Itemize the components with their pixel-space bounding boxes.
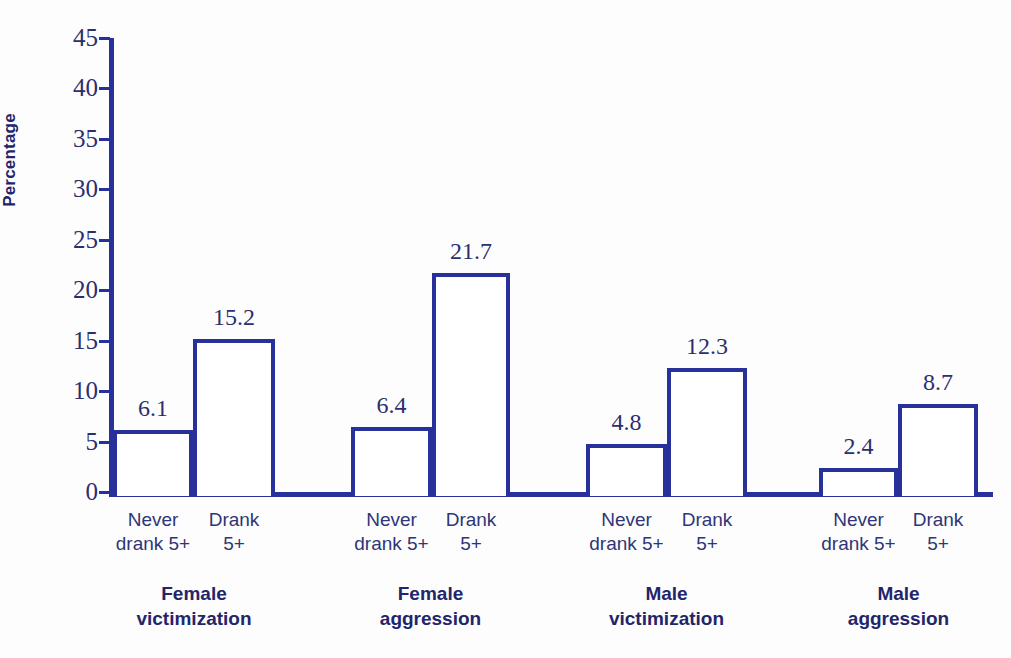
y-tick-mark	[99, 491, 110, 494]
x-tick-label-line1: Drank	[637, 508, 777, 532]
x-tick-label-line1: Drank	[868, 508, 1008, 532]
y-tick-mark	[99, 138, 110, 141]
y-tick-mark	[99, 188, 110, 191]
bar-value-label: 6.1	[108, 396, 198, 420]
plot-area: 454035302520151050 6.115.26.421.74.812.3…	[113, 38, 993, 492]
y-tick-label: 35	[38, 126, 98, 151]
bar[interactable]	[193, 339, 275, 496]
x-tick-label-line1: Drank	[401, 508, 541, 532]
x-tick-label-line2: 5+	[637, 532, 777, 556]
group-label-line2: victimization	[557, 607, 777, 632]
x-tick-label-line2: 5+	[868, 532, 1008, 556]
bar-value-label: 12.3	[662, 334, 752, 358]
bar-value-label: 2.4	[814, 434, 904, 458]
x-tick-label-line2: 5+	[401, 532, 541, 556]
x-tick-label: Drank5+	[868, 508, 1008, 557]
group-label-line1: Female	[321, 582, 541, 607]
group-label-line2: victimization	[84, 607, 304, 632]
group-label-line2: aggression	[789, 607, 1009, 632]
chart-page: Percentage 454035302520151050 6.115.26.4…	[0, 0, 1011, 658]
y-tick-label: 30	[38, 176, 98, 201]
y-tick-label: 5	[38, 429, 98, 454]
y-tick-label: 25	[38, 227, 98, 252]
group-label: Femaleaggression	[321, 582, 541, 631]
bar[interactable]	[898, 404, 978, 496]
bar-value-label: 8.7	[893, 370, 983, 394]
group-label-line1: Male	[789, 582, 1009, 607]
y-axis-line	[109, 38, 114, 496]
y-tick-label: 15	[38, 328, 98, 353]
bar[interactable]	[586, 444, 667, 496]
bar-value-label: 21.7	[426, 239, 516, 263]
group-label-line1: Male	[557, 582, 777, 607]
bar[interactable]	[432, 273, 510, 496]
x-tick-label: Drank5+	[164, 508, 304, 557]
group-label-line2: aggression	[321, 607, 541, 632]
y-axis-tick-labels: 454035302520151050	[8, 38, 98, 496]
bar-value-label: 6.4	[347, 393, 437, 417]
y-tick-label: 10	[38, 378, 98, 403]
group-label: Femalevictimization	[84, 582, 304, 631]
x-tick-label: Drank5+	[637, 508, 777, 557]
group-label: Maleaggression	[789, 582, 1009, 631]
y-tick-mark	[99, 37, 110, 40]
y-tick-label: 0	[38, 479, 98, 504]
bar-value-label: 15.2	[189, 305, 279, 329]
y-tick-label: 40	[38, 75, 98, 100]
group-label: Malevictimization	[557, 582, 777, 631]
bar[interactable]	[351, 427, 432, 496]
x-tick-label-line1: Drank	[164, 508, 304, 532]
bar[interactable]	[113, 430, 193, 496]
group-label-line1: Female	[84, 582, 304, 607]
x-tick-label-line2: 5+	[164, 532, 304, 556]
y-tick-mark	[99, 390, 110, 393]
y-tick-mark	[99, 87, 110, 90]
bar[interactable]	[819, 468, 898, 496]
y-tick-label: 45	[38, 25, 98, 50]
y-tick-label: 20	[38, 277, 98, 302]
x-tick-label: Drank5+	[401, 508, 541, 557]
y-tick-mark	[99, 340, 110, 343]
y-tick-mark	[99, 441, 110, 444]
y-tick-mark	[99, 239, 110, 242]
y-tick-mark	[99, 289, 110, 292]
bar[interactable]	[667, 368, 747, 496]
bar-value-label: 4.8	[582, 410, 672, 434]
